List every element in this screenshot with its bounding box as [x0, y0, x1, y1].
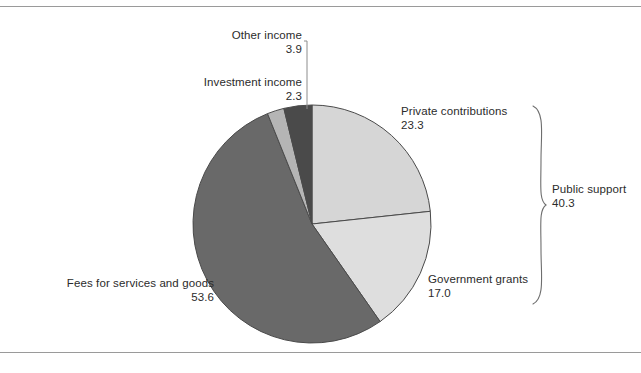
annotation-label-public-support: Public support 40.3 — [552, 182, 638, 210]
slice-label-investment-income-name: Investment income — [204, 76, 302, 88]
leader-line-other-income — [304, 41, 307, 109]
pie-chart-figure: Private contributions 23.3Government gra… — [0, 0, 641, 373]
annotation-label-public-support-value: 40.3 — [552, 196, 638, 210]
slice-label-government-grants-name: Government grants — [428, 273, 528, 285]
slice-label-fees-value: 53.6 — [38, 290, 214, 304]
slice-label-private-contributions-value: 23.3 — [401, 118, 551, 132]
pie-chart-canvas: Private contributions 23.3Government gra… — [0, 0, 641, 373]
slice-label-fees-name: Fees for services and goods — [67, 277, 214, 289]
slice-label-investment-income-value: 2.3 — [180, 89, 302, 103]
annotation-label-public-support-name: Public support — [552, 183, 626, 195]
slice-label-investment-income: Investment income 2.3 — [180, 75, 302, 103]
slice-label-private-contributions: Private contributions 23.3 — [401, 104, 551, 132]
slice-label-fees-for-services-and-goods: Fees for services and goods 53.6 — [38, 276, 214, 304]
slice-label-other-income-value: 3.9 — [216, 42, 302, 56]
slice-label-private-contributions-name: Private contributions — [401, 105, 507, 117]
pie-slices-group: Private contributions 23.3Government gra… — [193, 105, 431, 343]
slice-label-government-grants-value: 17.0 — [428, 286, 568, 300]
slice-label-other-income-name: Other income — [232, 29, 302, 41]
slice-label-government-grants: Government grants 17.0 — [428, 272, 568, 300]
slice-label-other-income: Other income 3.9 — [216, 28, 302, 56]
